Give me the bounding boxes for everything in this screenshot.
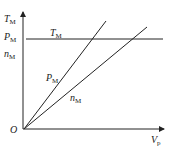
curve-label-tm: TM bbox=[50, 27, 63, 40]
y-label-tm: TM bbox=[4, 13, 17, 26]
curve-label-nm: nM bbox=[70, 92, 82, 105]
x-axis-label: Vp bbox=[151, 134, 161, 147]
y-label-nm: nM bbox=[4, 48, 16, 61]
nm-line bbox=[24, 27, 147, 129]
diagram-canvas: TM PM nM TM PM nM O Vp bbox=[0, 0, 169, 152]
y-label-pm: PM bbox=[3, 31, 17, 44]
curve-label-pm: PM bbox=[45, 72, 59, 85]
pm-line bbox=[24, 21, 106, 129]
origin-label: O bbox=[10, 124, 17, 135]
